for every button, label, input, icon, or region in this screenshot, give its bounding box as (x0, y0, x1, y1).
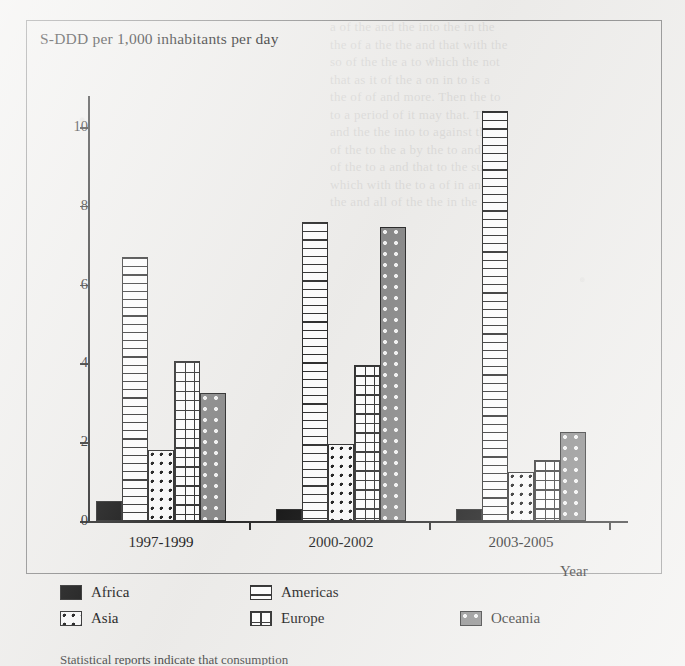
legend-label-oceania: Oceania (491, 610, 540, 627)
legend-swatch-asia (60, 611, 82, 626)
bar-asia-2003-2005 (508, 472, 534, 521)
bar-oceania-2003-2005 (560, 432, 586, 521)
legend-item-asia[interactable]: Asia (60, 608, 119, 628)
bar-africa-2003-2005 (456, 509, 482, 521)
bar-americas-1997-1999 (122, 257, 148, 521)
bar-africa-2000-2002 (276, 509, 302, 521)
legend-swatch-europe (250, 611, 272, 626)
chart-title: S-DDD per 1,000 inhabitants per day (40, 30, 279, 48)
bar-americas-2000-2002 (302, 222, 328, 521)
legend-label-africa: Africa (91, 584, 129, 601)
x-tick-mark (249, 521, 251, 530)
bar-asia-2000-2002 (328, 444, 354, 521)
bar-asia-1997-1999 (148, 450, 174, 521)
legend-label-americas: Americas (281, 584, 338, 601)
bar-europe-2000-2002 (354, 365, 380, 521)
y-tick-label: 6 (62, 276, 88, 293)
x-axis-line (88, 521, 628, 523)
y-tick-label: 10 (62, 118, 88, 135)
bar-americas-2003-2005 (482, 111, 508, 521)
legend-label-europe: Europe (281, 610, 324, 627)
bar-africa-1997-1999 (96, 501, 122, 521)
y-tick-label: 8 (62, 197, 88, 214)
bar-oceania-1997-1999 (200, 393, 226, 521)
legend-item-americas[interactable]: Americas (250, 582, 338, 602)
legend-label-asia: Asia (91, 610, 119, 627)
legend-swatch-oceania (460, 611, 482, 626)
x-axis-label-2003-2005: 2003-2005 (451, 534, 591, 551)
legend-item-africa[interactable]: Africa (60, 582, 129, 602)
x-tick-mark (429, 521, 431, 530)
y-tick-label: 4 (62, 354, 88, 371)
legend-swatch-africa (60, 585, 82, 600)
y-tick-label: 2 (62, 433, 88, 450)
y-tick-label: 0 (62, 512, 88, 529)
bar-europe-1997-1999 (174, 361, 200, 521)
bar-oceania-2000-2002 (380, 227, 406, 521)
bar-europe-2003-2005 (534, 460, 560, 521)
legend-item-europe[interactable]: Europe (250, 608, 324, 628)
y-axis-line (88, 96, 90, 522)
x-axis-label-2000-2002: 2000-2002 (271, 534, 411, 551)
x-axis-title: Year (560, 563, 588, 580)
x-axis-label-1997-1999: 1997-1999 (91, 534, 231, 551)
legend-swatch-americas (250, 585, 272, 600)
caption-fragment: Statistical reports indicate that consum… (60, 652, 288, 665)
legend-item-oceania[interactable]: Oceania (460, 608, 540, 628)
x-tick-mark (609, 521, 611, 530)
